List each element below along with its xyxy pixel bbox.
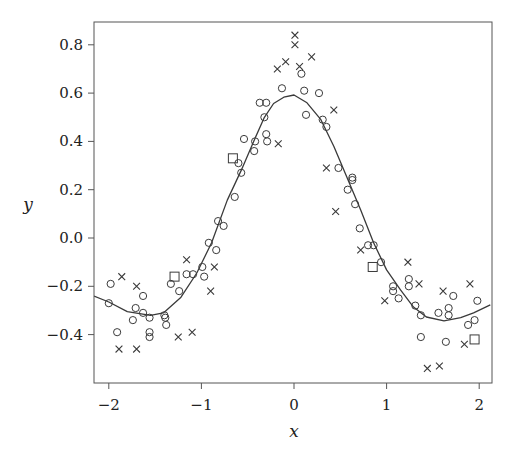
data-point-cross xyxy=(133,346,140,353)
data-layer xyxy=(94,32,490,372)
x-tick-label: 2 xyxy=(474,396,484,414)
plot-area xyxy=(94,32,490,372)
y-tick-label: 0.2 xyxy=(59,181,83,199)
data-point-cross xyxy=(416,280,423,287)
plot-frame xyxy=(94,22,492,383)
data-point-circle xyxy=(139,309,146,316)
data-point-circle xyxy=(471,317,478,324)
y-tick-label: 0.8 xyxy=(59,36,83,54)
data-point-cross xyxy=(292,32,299,39)
data-point-circle xyxy=(302,111,309,118)
y-tick-label: −0.2 xyxy=(47,277,83,295)
data-point-square xyxy=(368,262,377,271)
data-point-circle xyxy=(263,131,270,138)
data-point-circle xyxy=(251,147,258,154)
data-point-circle xyxy=(344,186,351,193)
data-point-circle xyxy=(278,85,285,92)
data-point-circle xyxy=(405,275,412,282)
data-point-circle xyxy=(450,292,457,299)
data-point-cross xyxy=(183,256,190,263)
data-point-circle xyxy=(240,135,247,142)
y-axis-label: y xyxy=(22,194,33,214)
data-point-cross xyxy=(404,259,411,266)
chart: −2−1012−0.4−0.20.00.20.40.60.8xy xyxy=(0,0,519,454)
fitted-curve xyxy=(94,95,490,321)
data-point-circle xyxy=(107,280,114,287)
axes: −2−1012−0.4−0.20.00.20.40.60.8xy xyxy=(22,22,492,441)
data-point-circle xyxy=(442,338,449,345)
data-point-cross xyxy=(116,346,123,353)
data-point-cross xyxy=(207,288,214,295)
data-point-square xyxy=(470,335,479,344)
data-point-circle xyxy=(201,273,208,280)
data-point-circle xyxy=(445,304,452,311)
data-point-circle xyxy=(176,288,183,295)
data-point-cross xyxy=(282,58,289,65)
data-point-circle xyxy=(417,333,424,340)
data-point-circle xyxy=(405,283,412,290)
data-point-square xyxy=(228,154,237,163)
data-point-circle xyxy=(474,297,481,304)
data-point-circle xyxy=(132,304,139,311)
data-point-cross xyxy=(133,283,140,290)
data-point-cross xyxy=(292,41,299,48)
x-tick-label: 0 xyxy=(289,396,299,414)
data-point-cross xyxy=(381,297,388,304)
data-point-cross xyxy=(332,208,339,215)
data-point-cross xyxy=(274,66,281,73)
data-point-circle xyxy=(356,225,363,232)
data-point-circle xyxy=(264,138,271,145)
data-point-square xyxy=(170,272,179,281)
data-point-circle xyxy=(139,292,146,299)
data-point-circle xyxy=(231,193,238,200)
data-point-cross xyxy=(308,53,315,60)
x-tick-label: −2 xyxy=(98,396,120,414)
data-point-circle xyxy=(395,295,402,302)
data-point-circle xyxy=(162,314,169,321)
data-point-cross xyxy=(118,273,125,280)
data-point-circle xyxy=(315,90,322,97)
data-point-circle xyxy=(435,309,442,316)
data-point-cross xyxy=(296,63,303,70)
y-tick-label: 0.0 xyxy=(59,229,83,247)
x-tick-label: −1 xyxy=(190,396,212,414)
data-point-circle xyxy=(220,222,227,229)
data-point-cross xyxy=(211,264,218,271)
data-point-circle xyxy=(335,164,342,171)
data-point-cross xyxy=(357,247,364,254)
data-point-circle xyxy=(114,329,121,336)
x-axis-label: x xyxy=(289,421,299,441)
data-point-cross xyxy=(424,365,431,372)
data-point-circle xyxy=(301,87,308,94)
data-point-circle xyxy=(389,288,396,295)
y-tick-label: 0.6 xyxy=(59,84,83,102)
data-point-circle xyxy=(445,312,452,319)
data-point-cross xyxy=(189,329,196,336)
y-tick-label: 0.4 xyxy=(59,132,83,150)
x-tick-label: 1 xyxy=(382,396,392,414)
data-point-cross xyxy=(436,363,443,370)
data-point-cross xyxy=(275,140,282,147)
data-point-cross xyxy=(323,165,330,172)
data-point-circle xyxy=(464,321,471,328)
data-point-circle xyxy=(129,317,136,324)
data-point-cross xyxy=(461,341,468,348)
data-point-circle xyxy=(213,246,220,253)
data-point-cross xyxy=(440,288,447,295)
data-point-circle xyxy=(163,321,170,328)
data-point-cross xyxy=(175,334,182,341)
data-point-circle xyxy=(146,333,153,340)
data-point-cross xyxy=(467,280,474,287)
data-point-circle xyxy=(298,70,305,77)
data-point-cross xyxy=(330,107,337,114)
y-tick-label: −0.4 xyxy=(47,326,83,344)
